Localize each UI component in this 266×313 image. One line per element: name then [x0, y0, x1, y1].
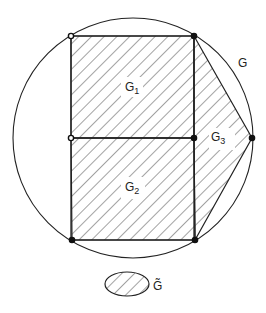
point-bottom-left [69, 237, 74, 242]
point-bottom-right [192, 237, 197, 242]
legend-ellipse-hatch [100, 268, 154, 300]
point-top-left [68, 33, 73, 38]
label-g: G [238, 56, 247, 70]
point-mid-right [191, 135, 196, 140]
point-top-right [191, 33, 196, 38]
point-mid-left [68, 135, 73, 140]
point-far-right [249, 135, 254, 140]
legend-g-tilde: G̃ [100, 268, 162, 300]
domain-diagram: G G1 G2 G3 G̃ [0, 0, 266, 313]
label-g-tilde: G̃ [153, 278, 162, 293]
